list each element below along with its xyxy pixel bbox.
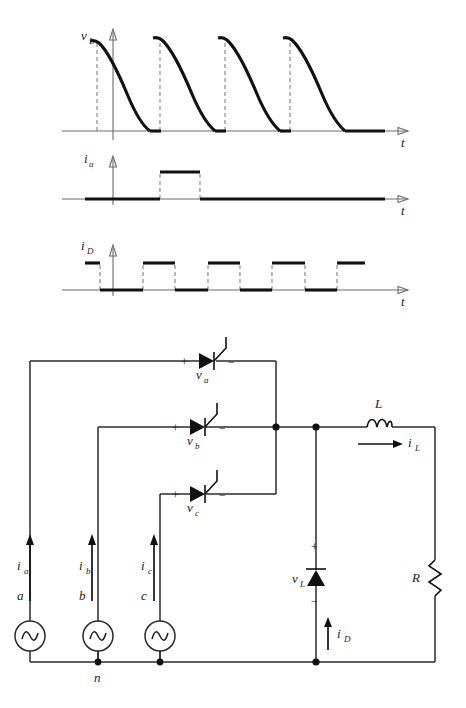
- thyristor-b-plus-sign: +: [172, 421, 179, 435]
- background: [0, 0, 466, 708]
- thyristor-c-voltage-sub: c: [195, 508, 199, 518]
- neutral-label: n: [94, 670, 101, 685]
- source-a-current-label: i: [17, 558, 21, 573]
- iD-label-sub: D: [86, 246, 94, 256]
- diode-voltage-label: v: [292, 571, 298, 586]
- source-b-current-sub: b: [86, 566, 91, 576]
- diode-plus-sign: +: [311, 540, 318, 554]
- ia-label-main: i: [84, 151, 88, 166]
- source-c-current-sub: c: [148, 566, 152, 576]
- source-c-current-label: i: [141, 558, 145, 573]
- diode-current-label: i: [337, 626, 341, 641]
- diode-top-node-dot: [312, 423, 319, 430]
- diode-current-sub: D: [343, 634, 351, 644]
- diode-bottom-node-dot: [312, 658, 319, 665]
- thyristor-c-plus-sign: +: [172, 488, 179, 502]
- ia-t-label: t: [401, 203, 405, 218]
- neutral-node-dot: [95, 659, 102, 666]
- source-c-phase-label: c: [141, 588, 147, 603]
- vL-label-main: v: [81, 28, 87, 43]
- thyristor-a-minus-sign: −: [228, 355, 235, 369]
- resistor-label: R: [411, 570, 420, 585]
- inductor-current-label: i: [408, 435, 412, 450]
- diode-minus-sign: −: [311, 594, 318, 608]
- source-b-current-label: i: [79, 558, 83, 573]
- common-cathode-node-dot: [272, 423, 279, 430]
- vL-t-label: t: [401, 135, 405, 150]
- inductor-label: L: [374, 396, 382, 411]
- iD-t-label: t: [401, 294, 405, 309]
- thyristor-c-voltage-label: v: [187, 500, 193, 515]
- figure-root: v L t i a t: [0, 0, 466, 708]
- diode-voltage-sub: L: [299, 579, 305, 589]
- thyristor-c-minus-sign: −: [219, 488, 226, 502]
- iD-label-main: i: [81, 238, 85, 253]
- thyristor-b-minus-sign: −: [219, 421, 226, 435]
- thyristor-b-voltage-sub: b: [195, 441, 200, 451]
- ia-label-sub: a: [89, 159, 94, 169]
- thyristor-a-voltage-sub: a: [204, 375, 209, 385]
- thyristor-a-voltage-label: v: [196, 367, 202, 382]
- thyristor-b-voltage-label: v: [187, 433, 193, 448]
- source-a-phase-label: a: [17, 588, 24, 603]
- vL-label-sub: L: [88, 36, 94, 46]
- circuit-and-waveforms-figure: v L t i a t: [0, 0, 466, 708]
- source-a-current-sub: a: [24, 566, 29, 576]
- inductor-current-sub: L: [414, 443, 420, 453]
- source-b-phase-label: b: [79, 588, 86, 603]
- thyristor-a-plus-sign: +: [181, 355, 188, 369]
- source-c-node-dot: [157, 659, 164, 666]
